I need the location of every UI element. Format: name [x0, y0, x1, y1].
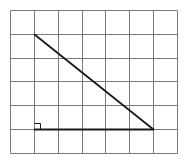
right-triangle-on-grid-diagram [0, 0, 188, 159]
background [0, 0, 188, 159]
